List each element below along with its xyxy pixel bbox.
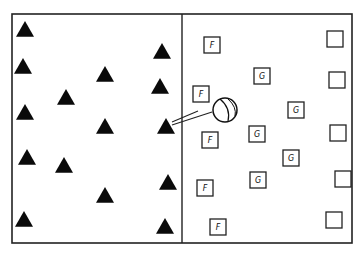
triangle-players-group — [14, 21, 177, 234]
triangle-player-icon — [18, 149, 36, 165]
triangle-player-icon — [16, 21, 34, 37]
player-label: F — [208, 136, 213, 145]
player-label: F — [203, 184, 208, 193]
player-label: G — [293, 106, 299, 115]
player-label: G — [259, 72, 265, 81]
empty-square-icon — [326, 212, 342, 228]
empty-square-icon — [329, 72, 345, 88]
triangle-player-icon — [159, 174, 177, 190]
triangle-player-icon — [55, 157, 73, 173]
triangle-player-icon — [157, 118, 175, 134]
labeled-square-player: F — [202, 132, 218, 148]
player-label: F — [210, 41, 215, 50]
labeled-square-player: G — [283, 150, 299, 166]
triangle-player-icon — [16, 104, 34, 120]
triangle-player-icon — [151, 78, 169, 94]
labeled-square-player: F — [197, 180, 213, 196]
triangle-player-icon — [96, 118, 114, 134]
empty-square-icon — [330, 125, 346, 141]
triangle-player-icon — [153, 43, 171, 59]
labeled-square-players-group: FFFFFGGGGG — [193, 37, 304, 235]
ball-icon — [213, 98, 237, 122]
labeled-square-player: F — [193, 86, 209, 102]
player-label: G — [255, 176, 261, 185]
labeled-square-player: G — [249, 126, 265, 142]
labeled-square-player: F — [204, 37, 220, 53]
pass-trail — [172, 111, 212, 125]
empty-square-icon — [335, 171, 351, 187]
triangle-player-icon — [96, 187, 114, 203]
player-label: F — [216, 223, 221, 232]
player-label: G — [288, 154, 294, 163]
triangle-player-icon — [15, 211, 33, 227]
field-diagram: FFFFFGGGGG — [0, 0, 361, 255]
labeled-square-player: G — [288, 102, 304, 118]
triangle-player-icon — [14, 58, 32, 74]
player-label: G — [254, 130, 260, 139]
player-label: F — [199, 90, 204, 99]
labeled-square-player: G — [250, 172, 266, 188]
empty-square-markers-group — [326, 31, 351, 228]
labeled-square-player: G — [254, 68, 270, 84]
empty-square-icon — [327, 31, 343, 47]
triangle-player-icon — [156, 218, 174, 234]
labeled-square-player: F — [210, 219, 226, 235]
ball-outline — [213, 98, 237, 122]
triangle-player-icon — [96, 66, 114, 82]
triangle-player-icon — [57, 89, 75, 105]
